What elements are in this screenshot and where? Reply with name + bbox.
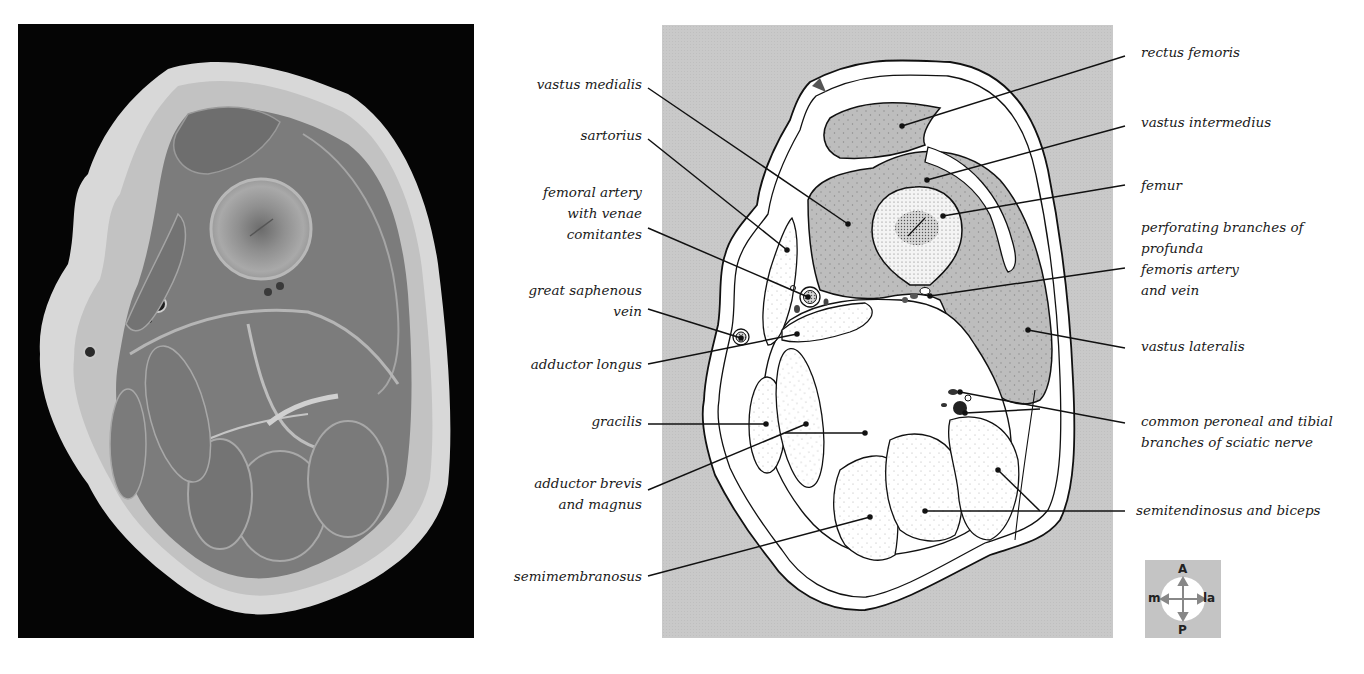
label-sciatic-branches: common peroneal and tibialbranches of sc… [1141, 411, 1333, 453]
label-vastus-medialis: vastus medialis [537, 74, 642, 95]
cross-section-photo [18, 24, 474, 638]
compass-posterior: P [1178, 623, 1187, 637]
label-semitendinosus-biceps: semitendinosus and biceps [1136, 500, 1321, 521]
label-femoral-artery: femoral arterywith venaecomitantes [543, 182, 642, 245]
label-perforating-branches: perforating branches ofprofundafemoris a… [1141, 217, 1304, 301]
label-adductor-longus: adductor longus [531, 354, 642, 375]
label-vastus-intermedius: vastus intermedius [1141, 112, 1271, 133]
compass-anterior: A [1178, 562, 1187, 576]
compass-lateral: la [1203, 591, 1215, 605]
label-semimembranosus: semimembranosus [514, 566, 642, 587]
label-adductor-brevis-magnus: adductor brevisand magnus [534, 473, 642, 515]
label-rectus-femoris: rectus femoris [1141, 42, 1240, 63]
compass-medial: m [1148, 591, 1161, 605]
label-femur: femur [1141, 175, 1182, 196]
label-gracilis: gracilis [591, 411, 642, 432]
diagram-panel [662, 25, 1113, 638]
label-vastus-lateralis: vastus lateralis [1141, 336, 1245, 357]
label-sartorius: sartorius [581, 125, 642, 146]
label-great-saphenous-vein: great saphenousvein [528, 280, 642, 322]
photo-illustration [18, 24, 474, 638]
orientation-compass: A P m la [1145, 560, 1221, 638]
